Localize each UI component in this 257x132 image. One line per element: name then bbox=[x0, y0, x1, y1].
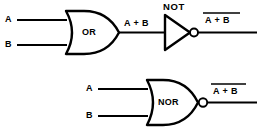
or-output-expression-label: A + B bbox=[124, 19, 149, 28]
or-input-b-label: B bbox=[5, 40, 12, 49]
top-output-expression-label: A + B bbox=[205, 16, 230, 25]
or-input-a-label: A bbox=[5, 15, 12, 24]
nor-input-a-label: A bbox=[86, 84, 93, 93]
not-gate-inversion-bubble bbox=[190, 29, 198, 37]
bottom-output-expression-label: A + B bbox=[213, 87, 238, 96]
not-gate-body bbox=[165, 15, 190, 50]
nor-gate-label: NOR bbox=[158, 98, 179, 107]
nor-input-b-label: B bbox=[86, 111, 93, 120]
not-gate-label: NOT bbox=[163, 2, 185, 12]
logic-gate-equivalence-diagram: A B OR A + B NOT A + B A B NOR A + B bbox=[0, 0, 257, 132]
or-gate-label: OR bbox=[82, 28, 96, 37]
nor-gate-inversion-bubble bbox=[199, 98, 207, 106]
